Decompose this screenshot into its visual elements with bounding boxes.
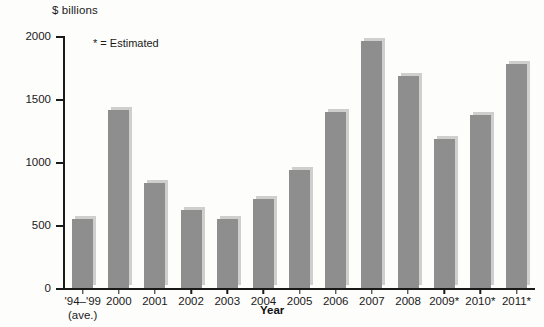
bar-column [398,36,419,288]
bar [181,210,202,288]
y-tick-label: 2000 [25,30,51,42]
bar [108,110,129,288]
x-tick-label: '94–'99(ave.) [65,294,101,322]
bar [325,112,346,288]
bar-series [65,36,535,288]
bar [144,183,165,288]
y-tick-mark [56,36,64,38]
y-tick-label: 500 [32,219,51,231]
bar [72,219,93,288]
bar-column [470,36,491,288]
bar-column [325,36,346,288]
x-tick-label: 2005 [282,294,318,308]
y-tick-mark [56,99,64,101]
x-axis-title: Year [260,304,284,316]
bar-column [253,36,274,288]
bar [398,76,419,288]
y-tick-label: 0 [45,282,51,294]
bar-column [506,36,527,288]
bar [253,199,274,288]
bar-column [361,36,382,288]
y-tick-mark [56,225,64,227]
x-tick-label: 2001 [137,294,173,308]
bar [361,41,382,288]
x-tick-label: 2011* [498,294,534,308]
bar-column [434,36,455,288]
x-tick-label: 2008 [390,294,426,308]
bar-column [72,36,93,288]
x-tick-label: 2003 [209,294,245,308]
plot-area: 0500100015002000 '94–'99(ave.)2000200120… [63,36,535,288]
x-tick-label: 2000 [101,294,137,308]
bar-column [181,36,202,288]
bar [434,139,455,288]
bar [506,64,527,288]
bar [470,115,491,288]
y-tick-mark [56,162,64,164]
x-tick-label: 2009* [426,294,462,308]
y-tick-label: 1000 [25,156,51,168]
x-tick-sublabel: (ave.) [65,308,101,322]
y-tick-mark [56,288,64,290]
bar [289,170,310,288]
bar-column [217,36,238,288]
bar-column [289,36,310,288]
bar-column [144,36,165,288]
chart-page: $ billions * = Estimated 050010001500200… [0,0,544,327]
x-tick-label: 2010* [462,294,498,308]
x-tick-label: 2002 [173,294,209,308]
x-tick-label: 2006 [318,294,354,308]
x-tick-label: 2007 [354,294,390,308]
y-tick-label: 1500 [25,93,51,105]
y-axis-title: $ billions [52,4,98,16]
bar-column [108,36,129,288]
bar [217,219,238,288]
